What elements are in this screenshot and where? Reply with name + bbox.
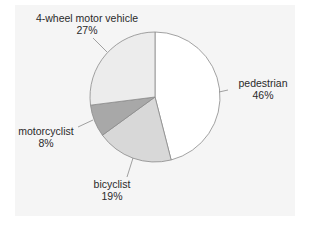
label-motorcyclist: motorcyclist 8% — [14, 125, 78, 149]
label-pct: 19% — [82, 190, 142, 202]
leader-line — [127, 158, 133, 177]
label-pct: 27% — [27, 24, 147, 36]
label-4-wheel-motor-vehicle: 4-wheel motor vehicle 27% — [27, 12, 147, 36]
label-name: 4-wheel motor vehicle — [27, 12, 147, 24]
label-bicyclist: bicyclist 19% — [82, 178, 142, 202]
leader-line — [93, 38, 107, 52]
label-name: pedestrian — [228, 77, 298, 89]
label-pct: 46% — [228, 89, 298, 101]
label-pedestrian: pedestrian 46% — [228, 77, 298, 101]
label-name: bicyclist — [82, 178, 142, 190]
leader-line — [219, 90, 228, 92]
label-pct: 8% — [14, 137, 78, 149]
pie-slice-4-wheel-motor-vehicle — [90, 32, 155, 105]
leader-line — [78, 120, 93, 127]
label-name: motorcyclist — [14, 125, 78, 137]
